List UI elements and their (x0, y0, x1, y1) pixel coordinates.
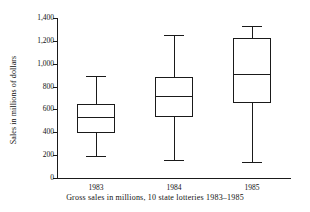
y-tick-label: 200 (43, 151, 54, 159)
x-axis-label-1985: 1985 (245, 184, 260, 192)
box-plot-1985 (213, 18, 291, 178)
y-tick-label: 0 (50, 174, 54, 182)
box-plot-1983 (57, 18, 135, 178)
lower-whisker-line (174, 117, 175, 159)
lower-whisker-cap (86, 156, 106, 157)
upper-whisker-cap (86, 76, 106, 77)
box-plot-1984 (135, 18, 213, 178)
lower-whisker-cap (164, 160, 184, 161)
y-tick-label: 800 (43, 83, 54, 91)
chart-caption: Gross sales in millions, 10 state lotter… (0, 194, 310, 202)
x-axis-line (57, 178, 291, 179)
y-tick-label: 600 (43, 106, 54, 114)
upper-whisker-line (96, 76, 97, 104)
upper-whisker-line (252, 26, 253, 38)
box-iqr-rect (233, 38, 271, 103)
lower-whisker-cap (242, 162, 262, 163)
y-tick-label: 400 (43, 129, 54, 137)
lower-whisker-line (252, 103, 253, 162)
y-tick-label: 1,400 (37, 14, 54, 22)
plot-area: 02004006008001,0001,2001,400 19831984198… (57, 18, 291, 178)
upper-whisker-line (174, 35, 175, 77)
median-line (155, 96, 193, 97)
median-line (233, 74, 271, 75)
x-axis-label-1983: 1983 (89, 184, 104, 192)
box-plot-chart: Sales in millions of dollars 02004006008… (0, 0, 310, 212)
y-tick-label: 1,200 (37, 37, 54, 45)
y-axis-title: Sales in millions of dollars (7, 20, 21, 180)
box-iqr-rect (155, 77, 193, 118)
y-tick-label: 1,000 (37, 60, 54, 68)
upper-whisker-cap (242, 26, 262, 27)
median-line (77, 117, 115, 118)
upper-whisker-cap (164, 35, 184, 36)
lower-whisker-line (96, 133, 97, 156)
x-axis-label-1984: 1984 (167, 184, 182, 192)
box-iqr-rect (77, 104, 115, 133)
